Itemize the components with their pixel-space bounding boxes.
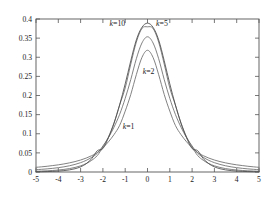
label-k10: k=10 [110, 19, 126, 28]
data-curves [36, 23, 259, 172]
y-tick-label-0.35: 0.35 [19, 34, 32, 43]
curve-k10 [36, 23, 259, 172]
x-tick-label-5: 5 [257, 175, 261, 184]
plot-frame [36, 19, 259, 172]
x-tick-label-3: 3 [213, 175, 217, 184]
y-tick-label-0.2: 0.2 [23, 91, 33, 100]
y-tick-label-0.25: 0.25 [19, 72, 32, 81]
y-tick-label-0.15: 0.15 [19, 110, 32, 119]
chart-svg: 0 0.05 0.1 0.15 0.2 0.25 0.3 0.35 0.4 [0, 0, 274, 200]
curve-k2 [36, 37, 259, 170]
x-axis-top-ticks [36, 19, 259, 23]
chart-page: 0 0.05 0.1 0.15 0.2 0.25 0.3 0.35 0.4 [0, 0, 274, 200]
x-tick-label-0: 0 [146, 175, 150, 184]
y-axis-right-ticks [255, 38, 259, 172]
x-tick-label-1: 1 [168, 175, 172, 184]
y-tick-label-0.05: 0.05 [19, 149, 32, 158]
y-tick-label-0: 0 [28, 168, 32, 177]
label-k5: k=5 [156, 19, 168, 28]
x-tick-label--3: -3 [77, 175, 84, 184]
y-axis-tick-labels: 0 0.05 0.1 0.15 0.2 0.25 0.3 0.35 0.4 [19, 15, 33, 177]
label-k2: k=2 [143, 67, 155, 76]
label-k1: k=1 [123, 122, 135, 131]
y-tick-label-0.3: 0.3 [23, 53, 33, 62]
curve-k5 [36, 27, 259, 172]
tdistribution-pdf-figure: 0 0.05 0.1 0.15 0.2 0.25 0.3 0.35 0.4 [0, 0, 274, 200]
y-tick-label-0.1: 0.1 [23, 129, 33, 138]
x-tick-label-4: 4 [235, 175, 239, 184]
y-tick-label-0.4: 0.4 [23, 15, 33, 24]
y-axis-ticks [36, 19, 40, 172]
x-tick-label-2: 2 [190, 175, 194, 184]
x-tick-label--2: -2 [100, 175, 107, 184]
x-tick-label--1: -1 [122, 175, 129, 184]
x-tick-label--4: -4 [55, 175, 62, 184]
x-tick-label--5: -5 [33, 175, 40, 184]
x-axis-tick-labels: -5 -4 -3 -2 -1 0 1 2 3 4 5 [33, 175, 261, 184]
